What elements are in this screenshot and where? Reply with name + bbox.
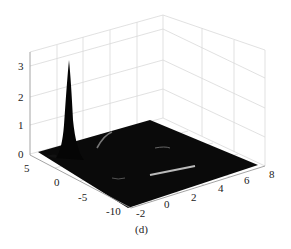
svg-text:8: 8 — [269, 168, 275, 180]
svg-text:0: 0 — [54, 176, 60, 188]
svg-text:5: 5 — [24, 162, 30, 174]
svg-text:3: 3 — [18, 60, 24, 72]
svg-text:-10: -10 — [106, 205, 121, 217]
surface-plot: 0 1 2 3 5 0 -5 -10 -2 0 2 4 6 8 (d) — [0, 0, 291, 249]
svg-text:-5: -5 — [78, 191, 88, 203]
z-axis-ticks: 0 1 2 3 — [18, 60, 24, 160]
svg-text:0: 0 — [164, 198, 170, 210]
surface — [38, 60, 258, 208]
svg-text:4: 4 — [218, 182, 224, 194]
svg-text:2: 2 — [18, 91, 24, 103]
svg-text:6: 6 — [244, 174, 250, 186]
svg-text:-2: -2 — [136, 207, 145, 219]
svg-text:1: 1 — [18, 119, 24, 131]
figure-caption: (d) — [135, 223, 148, 236]
svg-text:0: 0 — [18, 148, 24, 160]
svg-text:2: 2 — [191, 191, 197, 203]
